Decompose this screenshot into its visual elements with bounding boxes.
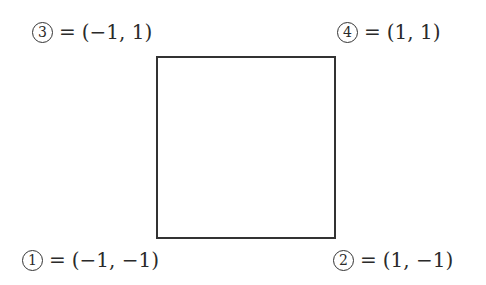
corner-coords: (−1, −1) xyxy=(72,248,159,272)
corner-label-top-right: 4 = (1, 1) xyxy=(337,20,441,44)
equals-sign: = xyxy=(364,20,381,44)
equals-sign: = xyxy=(59,20,76,44)
circled-number-3: 3 xyxy=(32,22,53,43)
circled-number-2: 2 xyxy=(333,250,354,271)
circled-number-1: 1 xyxy=(22,250,43,271)
equals-sign: = xyxy=(360,248,377,272)
corner-coords: (1, −1) xyxy=(383,248,454,272)
circled-number-4: 4 xyxy=(337,22,358,43)
corner-label-bottom-left: 1 = (−1, −1) xyxy=(22,248,159,272)
corner-label-top-left: 3 = (−1, 1) xyxy=(32,20,152,44)
corner-label-bottom-right: 2 = (1, −1) xyxy=(333,248,453,272)
reference-square xyxy=(156,56,336,239)
corner-coords: (1, 1) xyxy=(387,20,441,44)
corner-coords: (−1, 1) xyxy=(82,20,153,44)
equals-sign: = xyxy=(49,248,66,272)
